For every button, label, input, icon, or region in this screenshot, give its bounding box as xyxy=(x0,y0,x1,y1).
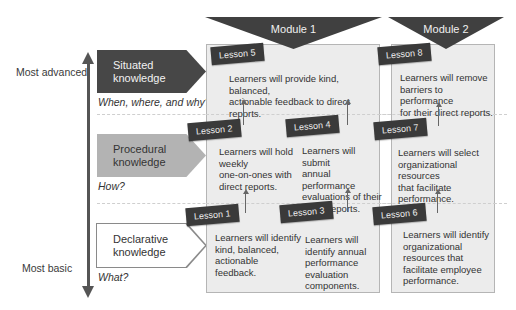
lesson-1-objective-line: kind, balanced, xyxy=(215,244,305,256)
lesson-3-objective: Learners will identify annual performanc… xyxy=(305,234,385,292)
lesson-7-objective-line: that facilitate xyxy=(398,182,494,194)
lesson-6-objective-line: Learners will identify xyxy=(403,229,495,241)
lesson-8-objective: Learners will remove barriers to perform… xyxy=(400,72,496,118)
arrow-l2-to-l5-icon xyxy=(243,103,244,125)
lesson-4-objective-line: Learners will submit xyxy=(302,145,382,168)
question-situated: When, where, and why? xyxy=(98,96,211,108)
axis-line xyxy=(87,60,90,292)
lesson-8-objective-line: barriers to performance xyxy=(400,84,496,107)
arrow-l7-to-l8-icon xyxy=(438,106,439,126)
lesson-6-objective-line: performance. xyxy=(403,275,495,287)
lesson-2-objective-line: direct reports. xyxy=(219,181,299,193)
arrow-l1-to-l2-icon xyxy=(245,193,246,213)
lesson-6-objective-line: facilitate employee xyxy=(403,264,495,276)
lesson-2-objective-line: one-on-ones with xyxy=(219,169,299,181)
question-procedural: How? xyxy=(98,180,125,192)
lesson-7-objective: Learners will select organizational reso… xyxy=(398,147,494,205)
lesson-8-objective-line: Learners will remove xyxy=(400,72,496,84)
lesson-2-objective-line: Learners will hold xyxy=(219,146,299,158)
lesson-5-objective-line: Learners will provide kind, balanced, xyxy=(229,73,379,96)
lesson-4-objective-line: annual performance xyxy=(302,168,382,191)
lesson-6-objective: Learners will identify organizational re… xyxy=(403,229,495,287)
lesson-5-objective-line: actionable feedback to direct reports. xyxy=(229,96,379,119)
lesson-3-objective-line: performance xyxy=(305,257,385,269)
knowledge-procedural-line2: knowledge xyxy=(113,156,166,169)
lesson-6-objective-line: resources that xyxy=(403,252,495,264)
lesson-3-objective-line: evaluation xyxy=(305,269,385,281)
lesson-2-objective: Learners will hold weekly one-on-ones wi… xyxy=(219,146,299,192)
knowledge-declarative: Declarative knowledge xyxy=(97,224,205,267)
axis-arrow-down-icon xyxy=(82,286,94,298)
knowledge-situated-line2: knowledge xyxy=(113,72,166,85)
lesson-2-objective-line: weekly xyxy=(219,158,299,170)
lesson-3-objective-line: identify annual xyxy=(305,246,385,258)
lesson-1-objective-line: feedback. xyxy=(215,267,305,279)
arrow-l6-to-l7-icon xyxy=(437,193,438,213)
lesson-3-objective-line: components. xyxy=(305,280,385,292)
lesson-4-objective-line: evaluations of their xyxy=(302,191,382,203)
axis-bottom-label: Most basic xyxy=(22,262,72,274)
arrow-l4-to-l5-icon xyxy=(347,103,348,125)
knowledge-situated: Situated knowledge xyxy=(97,50,206,93)
knowledge-declarative-line1: Declarative xyxy=(113,233,168,246)
knowledge-situated-line1: Situated xyxy=(113,59,166,72)
lesson-3-objective-line: Learners will xyxy=(305,234,385,246)
lesson-6-objective-line: organizational xyxy=(403,241,495,253)
lesson-7-objective-line: organizational resources xyxy=(398,159,494,182)
knowledge-declarative-line2: knowledge xyxy=(113,246,168,259)
lesson-1-objective: Learners will identify kind, balanced, a… xyxy=(215,232,305,278)
question-declarative: What? xyxy=(98,271,128,283)
lesson-1-objective-line: Learners will identify xyxy=(215,232,305,244)
lesson-1-objective-line: actionable xyxy=(215,255,305,267)
axis-top-label: Most advanced xyxy=(16,66,87,78)
knowledge-procedural-line1: Procedural xyxy=(113,143,166,156)
lesson-5-objective: Learners will provide kind, balanced, ac… xyxy=(229,73,379,119)
arrow-l3-to-l4-icon xyxy=(347,192,348,212)
lesson-7-objective-line: Learners will select xyxy=(398,147,494,159)
lesson-8-objective-line: for their direct reports. xyxy=(400,107,496,119)
